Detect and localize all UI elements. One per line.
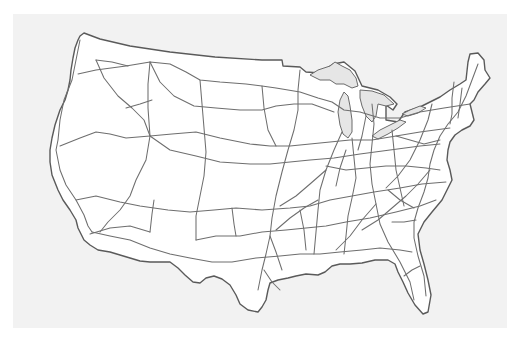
us-highway-map <box>0 0 524 344</box>
us-outline <box>50 33 490 314</box>
map-frame <box>0 0 524 344</box>
